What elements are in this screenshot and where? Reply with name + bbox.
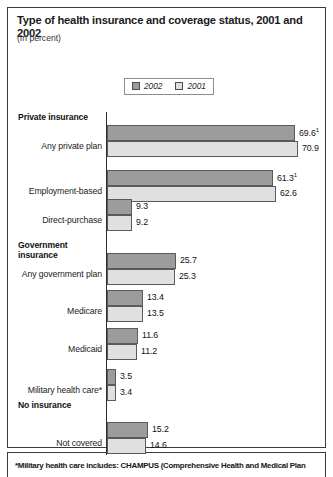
chart-footnote: *Military health care includes: CHAMPUS …: [15, 461, 327, 471]
bar-2002-direct-purchase: [107, 199, 132, 215]
bar-value-2001-medicaid: 11.2: [141, 346, 157, 356]
bar-value-2002-medicaid: 11.6: [142, 330, 158, 340]
bar-value-2001-direct-purchase: 9.2: [136, 217, 148, 227]
row-label-any-private-plan: Any private plan: [6, 141, 102, 151]
bar-2002-medicaid: [107, 328, 138, 344]
footnote-marker: 1: [294, 172, 297, 178]
bar-2002-employment-based: [107, 170, 273, 186]
bar-2002-military-health-care: [107, 369, 116, 385]
group-header-no-insurance: No insurance: [18, 400, 102, 410]
bar-2002-any-government-plan: [107, 253, 176, 269]
bar-value-2001-any-private-plan: 70.9: [302, 143, 319, 153]
bar-2001-any-government-plan: [107, 269, 175, 285]
bar-value-2002-any-government-plan: 25.7: [180, 255, 197, 265]
bar-value-2002-not-covered: 15.2: [152, 424, 169, 434]
group-header-government-insurance: Government insurance: [18, 240, 102, 260]
footnote-marker: 1: [316, 127, 319, 133]
bar-2001-medicare: [107, 306, 143, 322]
bar-2001-employment-based: [107, 186, 276, 202]
row-label-medicare: Medicare: [6, 306, 102, 316]
row-label-direct-purchase: Direct-purchase: [6, 215, 102, 225]
bar-2001-medicaid: [107, 344, 137, 360]
row-label-employment-based: Employment-based: [6, 186, 102, 196]
bar-value-2002-military-health-care: 3.5: [120, 371, 132, 381]
row-label-medicaid: Medicaid: [6, 344, 102, 354]
row-label-any-government-plan: Any government plan: [6, 269, 102, 279]
bar-value-2002-employment-based: 61.31: [277, 172, 297, 183]
bar-value-2002-any-private-plan: 69.61: [299, 127, 319, 138]
row-label-military-health-care: Military health care*: [6, 385, 102, 395]
bar-value-2002-medicare: 13.4: [147, 292, 164, 302]
bar-value-2001-military-health-care: 3.4: [120, 387, 132, 397]
bar-value-2001-medicare: 13.5: [147, 308, 164, 318]
bar-value-2001-employment-based: 62.6: [280, 188, 297, 198]
bar-2001-not-covered: [107, 438, 146, 454]
bar-value-2002-direct-purchase: 9.3: [136, 201, 148, 211]
group-header-private-insurance: Private insurance: [18, 112, 102, 122]
bar-2002-medicare: [107, 290, 143, 306]
bar-value-2001-not-covered: 14.6: [150, 440, 167, 450]
bar-2002-any-private-plan: [107, 125, 295, 141]
bar-2001-direct-purchase: [107, 215, 132, 231]
bar-2001-military-health-care: [107, 385, 116, 401]
bar-2002-not-covered: [107, 422, 148, 438]
bar-value-2001-any-government-plan: 25.3: [179, 271, 196, 281]
bar-2001-any-private-plan: [107, 141, 298, 157]
row-label-not-covered: Not covered: [6, 438, 102, 448]
